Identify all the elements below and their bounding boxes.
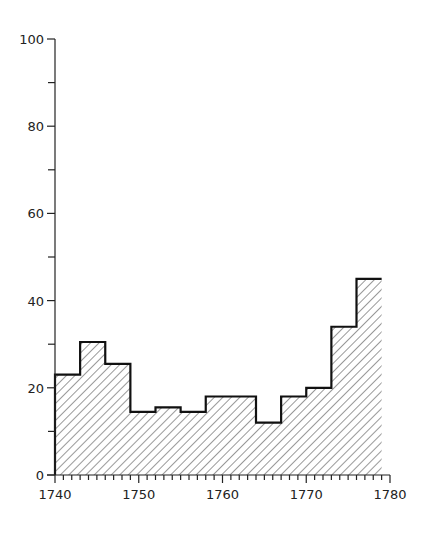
y-tick-label: 40 bbox=[27, 294, 44, 309]
y-tick-label: 100 bbox=[19, 32, 44, 47]
y-tick-label: 80 bbox=[27, 119, 44, 134]
histogram-fill bbox=[55, 279, 382, 475]
x-tick-label: 1750 bbox=[122, 487, 155, 502]
y-tick-label: 20 bbox=[27, 381, 44, 396]
y-tick-label: 0 bbox=[36, 468, 44, 483]
x-tick-label: 1770 bbox=[290, 487, 323, 502]
histogram-chart: 020406080100 17401750176017701780 bbox=[0, 0, 426, 533]
y-axis: 020406080100 bbox=[19, 32, 55, 483]
x-axis: 17401750176017701780 bbox=[38, 475, 406, 502]
plot-area bbox=[55, 279, 382, 475]
x-tick-label: 1780 bbox=[373, 487, 406, 502]
y-tick-label: 60 bbox=[27, 206, 44, 221]
x-tick-label: 1760 bbox=[206, 487, 239, 502]
x-tick-label: 1740 bbox=[38, 487, 71, 502]
